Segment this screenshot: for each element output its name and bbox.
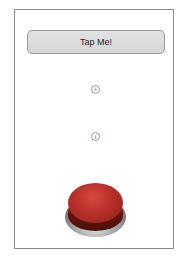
- tap-me-label: Tap Me!: [80, 37, 112, 47]
- info-icon[interactable]: i: [91, 132, 100, 141]
- add-icon[interactable]: +: [91, 85, 100, 94]
- tap-me-button[interactable]: Tap Me!: [27, 30, 165, 54]
- red-push-button[interactable]: [65, 183, 126, 237]
- button-cap: [68, 183, 123, 223]
